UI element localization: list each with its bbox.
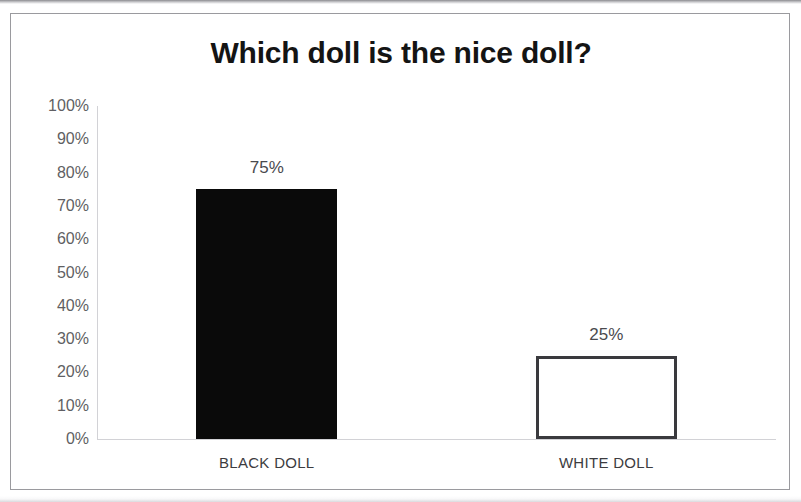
- y-axis-tick-label: 50%: [11, 264, 89, 282]
- y-axis-tick-label: 40%: [11, 297, 89, 315]
- plot-area: 75%25%: [97, 106, 776, 439]
- chart-frame: Which doll is the nice doll? 100%90%80%7…: [10, 13, 790, 490]
- scan-bottom-edge-artifact: [0, 496, 801, 502]
- bar-value-label: 75%: [196, 158, 337, 178]
- chart-title: Which doll is the nice doll?: [11, 36, 791, 70]
- y-axis-tick-label: 60%: [11, 230, 89, 248]
- y-axis-tick-label: 80%: [11, 164, 89, 182]
- bar-value-label: 25%: [536, 325, 677, 345]
- x-axis-category-label: WHITE DOLL: [437, 454, 777, 471]
- y-axis-tick-label: 20%: [11, 363, 89, 381]
- y-axis-tick-label: 90%: [11, 130, 89, 148]
- y-axis-tick-label: 0%: [11, 430, 89, 448]
- bar-slot: 75%: [196, 106, 337, 439]
- y-axis-tick-labels: 100%90%80%70%60%50%40%30%20%10%0%: [11, 106, 89, 439]
- bar-slot: 25%: [536, 106, 677, 439]
- x-axis-line: [97, 439, 776, 440]
- x-axis-category-label: BLACK DOLL: [97, 454, 437, 471]
- white-doll-bar: [536, 356, 677, 439]
- y-axis-tick-label: 100%: [11, 97, 89, 115]
- scan-top-edge-artifact: [0, 0, 801, 4]
- y-axis-tick-label: 70%: [11, 197, 89, 215]
- black-doll-bar: [196, 189, 337, 439]
- y-axis-tick-label: 10%: [11, 397, 89, 415]
- y-axis-tick-label: 30%: [11, 330, 89, 348]
